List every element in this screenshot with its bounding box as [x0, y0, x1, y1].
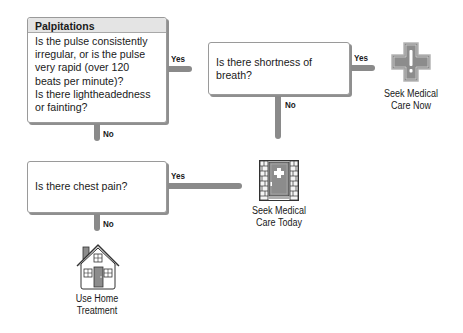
outcome-seek-care-now: Seek Medical Care Now [378, 88, 445, 112]
chest-pain-question-box: Is there chest pain? [27, 161, 167, 213]
yes-label-chest: Yes [171, 170, 185, 181]
yes-arrow-palpitations [168, 66, 192, 72]
yes-label-palpitations: Yes [171, 53, 185, 64]
no-arrow-palpitations [94, 124, 100, 141]
question-text: Is there shortness of breath? [209, 55, 349, 81]
box-title: Palpitations [28, 18, 166, 33]
yes-arrow-chest [168, 183, 242, 189]
house-icon [76, 243, 120, 290]
medical-cross-exclamation-icon [391, 42, 431, 82]
no-label-breath: No [285, 99, 296, 110]
clinic-door-icon [259, 160, 299, 201]
shortness-of-breath-question-box: Is there shortness of breath? [208, 42, 350, 95]
palpitations-question-box: Palpitations Is the pulse consistently i… [27, 17, 167, 123]
yes-label-breath: Yes [354, 52, 368, 63]
no-label-palpitations: No [103, 128, 114, 139]
question-text: Is the pulse consistently irregular, or … [28, 33, 166, 114]
outcome-seek-care-today: Seek Medical Care Today [246, 205, 313, 229]
question-text: Is there chest pain? [28, 180, 166, 193]
no-arrow-chest [94, 214, 100, 231]
outcome-home-treatment: Use Home Treatment [66, 293, 129, 317]
no-arrow-breath [275, 96, 281, 139]
no-label-chest: No [103, 218, 114, 229]
yes-arrow-breath [351, 65, 375, 71]
